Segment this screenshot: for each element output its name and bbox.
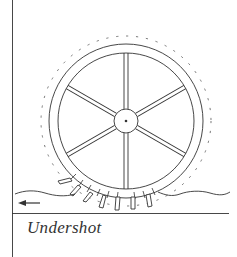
rim-segments [70, 174, 155, 199]
diagram-caption: Undershot [27, 218, 101, 238]
undershot-diagram: Undershot [0, 0, 237, 257]
water-surface [15, 191, 230, 196]
axle-dot [125, 120, 128, 123]
flow-arrow-icon [18, 200, 40, 206]
